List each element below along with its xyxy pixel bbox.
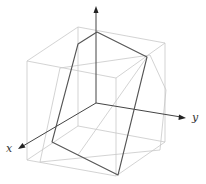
cube-section-diagram: y x — [0, 0, 206, 184]
cube-bottom-face — [27, 126, 165, 176]
aux-line — [150, 55, 166, 90]
y-axis — [96, 103, 181, 117]
y-axis-arrow-icon — [179, 115, 187, 121]
y-axis-label: y — [191, 111, 199, 124]
x-axis-label: x — [6, 142, 13, 155]
x-axis — [23, 103, 96, 146]
aux-line — [40, 68, 60, 162]
z-axis-arrow-icon — [94, 6, 99, 13]
x-axis-arrow-icon — [18, 143, 26, 149]
aux-line — [40, 150, 160, 162]
axes — [18, 6, 186, 149]
